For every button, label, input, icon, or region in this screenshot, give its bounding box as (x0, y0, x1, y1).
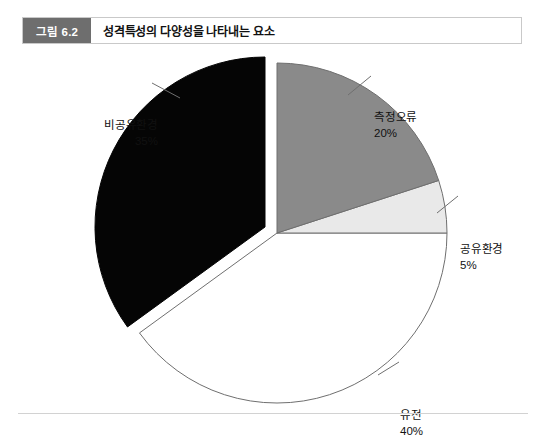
pie-label-nonshared-environment-value: 35% (62, 134, 158, 150)
figure-header: 그림 6.2 성격특성의 다양성을 나타내는 요소 (22, 17, 522, 44)
pie-label-shared-environment-value: 5% (460, 258, 540, 274)
figure-number-badge: 그림 6.2 (23, 18, 91, 43)
pie-label-measurement-error-name: 측정오류 (374, 110, 466, 126)
pie-label-genetics-name: 유전 (400, 408, 480, 424)
pie-label-measurement-error-value: 20% (374, 126, 466, 142)
pie-label-shared-environment-name: 공유환경 (460, 242, 540, 258)
pie-chart: 비공유환경 35% 측정오류 20% 공유환경 5% 유전 40% (0, 50, 545, 410)
pie-chart-svg (0, 50, 545, 410)
figure-bottom-divider (18, 413, 528, 414)
pie-label-measurement-error: 측정오류 20% (374, 110, 466, 141)
pie-label-genetics-value: 40% (400, 424, 480, 439)
figure-caption: 성격특성의 다양성을 나타내는 요소 (91, 18, 521, 43)
pie-label-shared-environment: 공유환경 5% (460, 242, 540, 273)
pie-label-nonshared-environment-name: 비공유환경 (62, 118, 158, 134)
pie-label-nonshared-environment: 비공유환경 35% (62, 118, 158, 149)
